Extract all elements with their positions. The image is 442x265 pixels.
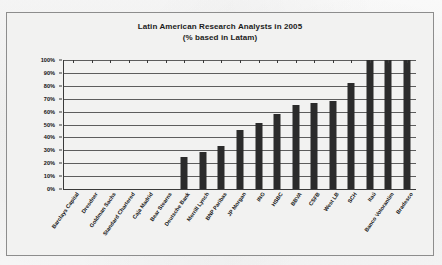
bar xyxy=(403,60,410,189)
bar-slot xyxy=(101,60,120,189)
x-axis-tick-mark xyxy=(221,60,222,63)
x-axis-tick-label: Itaú xyxy=(366,191,377,202)
x-axis-tick-label: BBVA xyxy=(289,191,303,207)
bar-slot xyxy=(286,60,305,189)
bar xyxy=(366,60,373,189)
x-axis-tick-label: HSBC xyxy=(270,191,284,207)
x-axis-tick-label: JP Morgan xyxy=(226,191,247,217)
y-axis-tick-mark xyxy=(59,189,62,190)
x-axis-tick-mark xyxy=(166,60,167,63)
x-axis-tick-label: Bradesco xyxy=(394,191,413,215)
y-axis-labels: 100%90%80%70%60%50%40%30%20%10%0% xyxy=(7,60,59,189)
bar xyxy=(255,123,262,189)
x-axis-tick-mark xyxy=(184,60,185,63)
y-axis-tick-mark xyxy=(59,124,62,125)
bar-series xyxy=(64,60,416,189)
bar xyxy=(236,130,243,189)
x-axis-tick-mark xyxy=(333,60,334,63)
y-axis-tick-label: 0% xyxy=(47,186,55,192)
bar-slot xyxy=(249,60,268,189)
plot-area xyxy=(63,60,416,190)
y-axis-tick-label: 40% xyxy=(44,134,55,140)
x-axis-tick-label: Dresdner xyxy=(80,191,99,214)
x-axis-tick-mark xyxy=(351,60,352,63)
bar-slot xyxy=(157,60,176,189)
y-axis-tick-mark xyxy=(59,85,62,86)
y-axis-tick-label: 80% xyxy=(44,83,55,89)
y-axis-tick-mark xyxy=(59,72,62,73)
x-axis-tick-label: SCH xyxy=(346,191,358,204)
chart-page: Latin American Research Analysts in 2005… xyxy=(0,0,442,265)
y-axis-tick-label: 10% xyxy=(44,173,55,179)
x-axis-tick-label: West LB xyxy=(322,191,339,212)
y-axis-tick-label: 70% xyxy=(44,96,55,102)
y-axis-tick-label: 100% xyxy=(41,57,55,63)
x-axis-tick-mark xyxy=(147,60,148,63)
y-axis-tick-mark xyxy=(59,163,62,164)
bar xyxy=(311,103,318,189)
x-axis-tick-mark xyxy=(73,60,74,63)
bar xyxy=(218,146,225,189)
x-axis-tick-mark xyxy=(370,60,371,63)
bar xyxy=(348,83,355,189)
bar xyxy=(329,101,336,189)
y-axis-tick-label: 30% xyxy=(44,147,55,153)
x-axis-tick-mark xyxy=(296,60,297,63)
y-axis-tick-mark xyxy=(59,98,62,99)
y-axis-tick-mark xyxy=(59,137,62,138)
x-axis-tick-mark xyxy=(240,60,241,63)
bar xyxy=(292,105,299,189)
y-axis-tick-mark xyxy=(59,176,62,177)
x-axis-tick-label: Barclays Capital xyxy=(51,191,80,230)
x-axis-tick-mark xyxy=(92,60,93,63)
y-axis-tick-label: 60% xyxy=(44,109,55,115)
x-axis-tick-mark xyxy=(388,60,389,63)
bar-slot xyxy=(138,60,157,189)
x-axis-tick-mark xyxy=(277,60,278,63)
y-axis-tick-mark xyxy=(59,60,62,61)
bar-slot xyxy=(397,60,416,189)
y-axis-tick-label: 90% xyxy=(44,70,55,76)
bar xyxy=(199,152,206,189)
x-axis-tick-label: CSFB xyxy=(307,191,321,207)
x-axis-tick-mark xyxy=(314,60,315,63)
bar-slot xyxy=(120,60,139,189)
bar-slot xyxy=(268,60,287,189)
chart-title: Latin American Research Analysts in 2005 xyxy=(7,21,433,32)
bar xyxy=(181,157,188,189)
x-axis-tick-mark xyxy=(110,60,111,63)
bar-slot xyxy=(175,60,194,189)
bar-slot xyxy=(342,60,361,189)
x-axis-tick-mark xyxy=(259,60,260,63)
x-axis-labels: Barclays CapitalDresdnerGoldman SachsSta… xyxy=(63,191,415,265)
bar-slot xyxy=(83,60,102,189)
y-axis-tick-label: 50% xyxy=(44,122,55,128)
y-axis-tick-mark xyxy=(59,150,62,151)
x-axis-tick-mark xyxy=(407,60,408,63)
bar-slot xyxy=(64,60,83,189)
bar-slot xyxy=(323,60,342,189)
chart-subtitle: (% based in Latam) xyxy=(7,32,433,43)
bar-slot xyxy=(379,60,398,189)
x-axis-tick-mark xyxy=(129,60,130,63)
bar-slot xyxy=(360,60,379,189)
bar xyxy=(274,114,281,189)
bar-slot xyxy=(212,60,231,189)
y-axis-tick-label: 20% xyxy=(44,160,55,166)
x-axis-tick-mark xyxy=(203,60,204,63)
y-axis-tick-mark xyxy=(59,111,62,112)
chart-frame: Latin American Research Analysts in 2005… xyxy=(6,12,434,256)
bar-slot xyxy=(231,60,250,189)
bar xyxy=(385,60,392,189)
bar-slot xyxy=(194,60,213,189)
bar-slot xyxy=(305,60,324,189)
chart-title-block: Latin American Research Analysts in 2005… xyxy=(7,21,433,43)
x-axis-tick-label: ING xyxy=(255,191,266,202)
